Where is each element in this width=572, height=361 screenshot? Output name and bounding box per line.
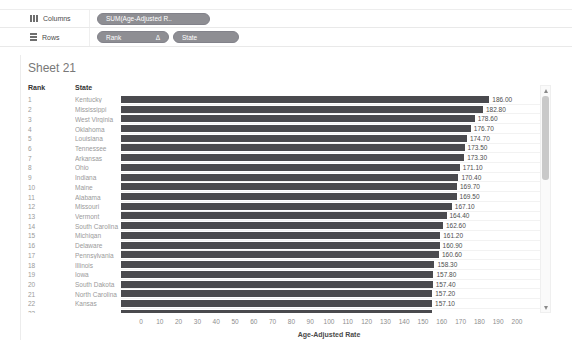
rank-cell: 17: [20, 252, 75, 259]
bar-mark[interactable]: [121, 281, 433, 288]
scroll-up-arrow-icon: [544, 89, 548, 93]
bar-mark[interactable]: [121, 154, 464, 161]
bar-mark[interactable]: [121, 290, 432, 297]
state-cell: Iowa: [75, 271, 121, 278]
bar-mark[interactable]: [121, 174, 458, 181]
bar-value-label: 171.10: [463, 164, 483, 171]
axis-tick-label: 200: [512, 318, 523, 325]
bar-mark[interactable]: [121, 96, 489, 103]
rows-pills: RankΔState: [90, 31, 239, 43]
bar-value-label: 170.40: [461, 174, 481, 181]
bar-mark[interactable]: [121, 125, 471, 132]
bar-mark[interactable]: [121, 193, 457, 200]
table-row: 18Illinois158.30: [20, 260, 540, 270]
bar-mark[interactable]: [121, 310, 432, 313]
bar-value-label: 169.50: [460, 193, 480, 200]
bar-track: 161.20: [121, 231, 540, 241]
table-row: 21North Carolina157.20: [20, 289, 540, 299]
bar-mark[interactable]: [121, 164, 460, 171]
rank-cell: 16: [20, 242, 75, 249]
rank-cell: 3: [20, 116, 75, 123]
pill-label: Rank: [106, 34, 121, 41]
bar-mark[interactable]: [121, 242, 440, 249]
sheet-title: Sheet 21: [28, 61, 76, 75]
state-cell: Oklahoma: [75, 126, 121, 133]
state-cell: North Carolina: [75, 291, 121, 298]
rank-cell: 19: [20, 271, 75, 278]
x-axis-title: Age-Adjusted Rate: [141, 331, 517, 338]
bar-value-label: 157.10: [435, 300, 455, 307]
bar-track: 169.50: [121, 192, 540, 202]
columns-shelf[interactable]: Columns SUM(Age-Adjusted R..: [0, 9, 572, 28]
table-row: 19Iowa157.80: [20, 270, 540, 280]
bar-mark[interactable]: [121, 271, 433, 278]
bar-track: 170.40: [121, 173, 540, 183]
bar-track: [121, 309, 540, 313]
bar-mark[interactable]: [121, 183, 457, 190]
bar-mark[interactable]: [121, 261, 434, 268]
bar-value-label: 157.20: [435, 290, 455, 297]
bar-mark[interactable]: [121, 232, 440, 239]
state-cell: Arkansas: [75, 155, 121, 162]
axis-tick-label: 130: [380, 318, 391, 325]
state-cell: West Virginia: [75, 116, 121, 123]
axis-tick-label: 40: [213, 318, 220, 325]
bar-mark[interactable]: [121, 106, 483, 113]
vertical-scrollbar[interactable]: [540, 85, 551, 313]
columns-shelf-head: Columns: [0, 10, 90, 27]
bar-mark[interactable]: [121, 203, 452, 210]
axis-tick-label: 50: [231, 318, 238, 325]
rank-cell: 9: [20, 174, 75, 181]
bar-value-label: 174.70: [470, 135, 490, 142]
state-cell: Ohio: [75, 164, 121, 171]
scroll-down-button[interactable]: [541, 303, 550, 312]
rank-cell: 14: [20, 223, 75, 230]
scrollbar-thumb[interactable]: [542, 96, 549, 180]
table-row: 22Kansas157.10: [20, 299, 540, 309]
table-row: 8Ohio171.10: [20, 163, 540, 173]
table-row: 17Pennsylvania160.60: [20, 251, 540, 261]
rank-column-header[interactable]: Rank: [28, 84, 45, 91]
bar-mark[interactable]: [121, 222, 443, 229]
axis-tick-label: 90: [307, 318, 314, 325]
axis-tick-label: 80: [288, 318, 295, 325]
rank-cell: 23: [20, 310, 75, 313]
bar-value-label: 157.40: [436, 281, 456, 288]
table-row: 12Missouri167.10: [20, 202, 540, 212]
rows-pill[interactable]: RankΔ: [97, 31, 169, 43]
table-row: 9Indiana170.40: [20, 173, 540, 183]
columns-pill[interactable]: SUM(Age-Adjusted R..: [97, 13, 210, 25]
state-cell: Tennessee: [75, 145, 121, 152]
table-row: 10Maine169.70: [20, 182, 540, 192]
bar-value-label: 173.30: [467, 154, 487, 161]
bar-mark[interactable]: [121, 144, 465, 151]
bar-track: 157.10: [121, 299, 540, 309]
state-cell: Mississippi: [75, 106, 121, 113]
bar-track: 157.40: [121, 280, 540, 290]
bar-track: 169.70: [121, 182, 540, 192]
rows-shelf[interactable]: Rows RankΔState: [0, 28, 572, 47]
scroll-up-button[interactable]: [541, 86, 550, 95]
bar-mark[interactable]: [121, 135, 467, 142]
bar-mark[interactable]: [121, 212, 447, 219]
tableau-worksheet-window: Columns SUM(Age-Adjusted R.. Rows RankΔS…: [0, 0, 572, 361]
table-row: 15Michigan161.20: [20, 231, 540, 241]
bar-mark[interactable]: [121, 300, 432, 307]
state-column-header[interactable]: State: [75, 84, 92, 91]
bar-value-label: 167.10: [455, 203, 475, 210]
state-cell: Maine: [75, 184, 121, 191]
delta-sort-icon[interactable]: Δ: [150, 34, 160, 41]
rank-cell: 7: [20, 155, 75, 162]
axis-tick-label: 110: [343, 318, 353, 325]
rank-cell: 6: [20, 145, 75, 152]
x-axis: 0102030405060708090100110120130140150160…: [141, 318, 540, 328]
bar-track: 176.70: [121, 124, 540, 134]
rank-cell: 1: [20, 96, 75, 103]
bar-track: 173.50: [121, 144, 540, 154]
bar-mark[interactable]: [121, 251, 439, 258]
bar-mark[interactable]: [121, 115, 475, 122]
table-row: 20South Dakota157.40: [20, 280, 540, 290]
table-row: 4Oklahoma176.70: [20, 124, 540, 134]
rank-cell: 22: [20, 300, 75, 307]
rows-pill[interactable]: State: [173, 31, 239, 43]
